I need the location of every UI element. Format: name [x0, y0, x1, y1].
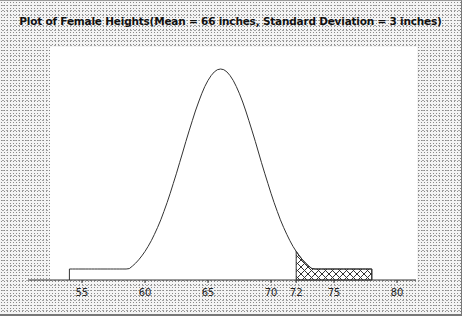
x-tick-label: 72 — [290, 287, 303, 298]
normal-curve — [69, 69, 371, 280]
chart-svg: 55606570727580 — [0, 1, 463, 324]
shaded-region-above-72 — [296, 251, 372, 280]
x-tick-label: 55 — [76, 287, 89, 298]
x-tick-label: 65 — [202, 287, 215, 298]
x-tick-label: 80 — [391, 287, 404, 298]
chart-frame: Plot of Female Heights(Mean = 66 inches,… — [0, 0, 462, 316]
x-tick-label: 75 — [328, 287, 341, 298]
x-tick-label: 70 — [265, 287, 278, 298]
x-axis-ticks: 55606570727580 — [76, 280, 404, 298]
x-tick-label: 60 — [139, 287, 152, 298]
